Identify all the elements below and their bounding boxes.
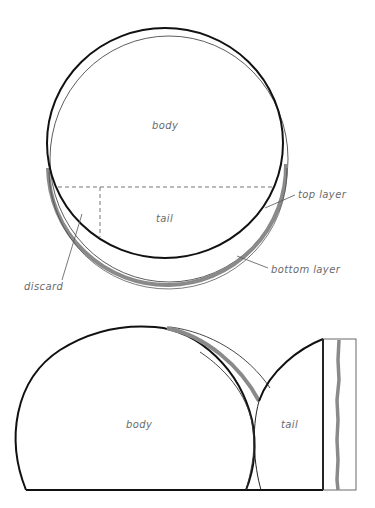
outer-layer-arc	[170, 327, 270, 388]
label-bottom-layer: bottom layer	[271, 264, 341, 275]
label-top-layer: top layer	[298, 189, 347, 200]
layer-band	[48, 164, 286, 285]
top-diagram: body tail top layer bottom layer discard	[24, 28, 347, 292]
body-arc-thin	[200, 352, 254, 490]
layer-band-flat	[167, 328, 259, 401]
label-tail-bottom: tail	[281, 419, 298, 430]
leader-bottom-layer	[237, 256, 268, 268]
label-body-top: body	[152, 120, 179, 131]
tail-outline	[259, 339, 323, 401]
label-tail-top: tail	[156, 213, 173, 224]
bottom-diagram: body tail	[16, 326, 356, 490]
label-discard: discard	[24, 281, 63, 292]
pattern-diagram: body tail top layer bottom layer discard…	[0, 0, 375, 508]
side-strip-band	[337, 340, 339, 490]
label-body-bottom: body	[126, 419, 153, 430]
bottom-layer-outline	[50, 36, 288, 282]
